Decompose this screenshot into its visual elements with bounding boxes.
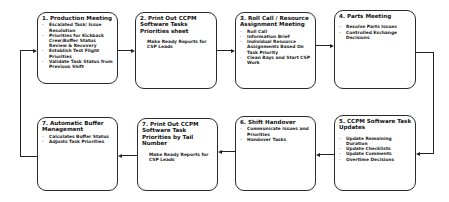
step-item: Priorities for Kickback Crew\Buffer Stat…: [42, 33, 114, 49]
arrow-right-icon: [131, 49, 135, 53]
arrow-left-icon: [118, 154, 122, 158]
step-item: Update Remaining Duration: [339, 136, 412, 146]
step-item: Handover Tasks: [240, 137, 312, 142]
connector-3-4: [316, 45, 330, 46]
connector-4-5-vertical: [433, 52, 434, 153]
connector-1-2: [118, 50, 131, 51]
step-item: Escalated Task/ Issue Resolution: [42, 22, 114, 32]
step-item: Establish Test Flight Priorities: [42, 48, 114, 58]
step-item: Individual Resource Assignments Based On…: [240, 39, 312, 55]
connector-7-7: [122, 155, 137, 156]
step-item: Overtime Decisions: [339, 157, 412, 162]
step-item: Controlled Exchange Decisions: [339, 30, 412, 40]
connector-loop-vertical: [20, 50, 21, 157]
connector-2-3: [217, 50, 231, 51]
arrow-left-icon: [316, 153, 320, 157]
step-item: Clean Bays and Start CSP Work: [240, 55, 312, 65]
step-title: 6. Shift Handover: [240, 119, 312, 125]
connector-loop-horizontal-top: [20, 50, 33, 51]
step-item: Make Ready Reports for CSP Leads: [140, 39, 213, 49]
step-2-print-ccpm-priorities: 2. Print Out CCPM Software Tasks Priorit…: [135, 12, 217, 89]
connector-loop-horizontal-bottom: [20, 156, 37, 157]
step-1-production-meeting: 1. Production Meeting Escalated Task/ Is…: [37, 12, 118, 84]
arrow-right-icon: [330, 44, 334, 48]
step-items: Make Ready Reports for CSP Leads: [142, 152, 214, 162]
step-title: 5. CCPM Software Task Updates: [339, 118, 412, 131]
step-items: Make Ready Reports for CSP Leads: [140, 39, 213, 49]
arrow-right-icon: [231, 49, 235, 53]
step-items: Roll Call Information Brief Individual R…: [240, 29, 312, 65]
arrow-left-icon: [218, 150, 222, 154]
connector-5-6: [320, 154, 334, 155]
step-item: Adjusts Task Priorities: [42, 139, 114, 144]
step-title: 1. Production Meeting: [42, 15, 114, 21]
step-items: Escalated Task/ Issue Resolution Priorit…: [42, 22, 114, 69]
step-item: Validate Task Status from Previous Shift: [42, 59, 114, 69]
step-7-automatic-buffer-management: 7. Automatic Buffer Management Calculate…: [37, 117, 118, 191]
step-item: Make Ready Reports for CSP Leads: [142, 152, 214, 162]
step-title: 7. Automatic Buffer Management: [42, 120, 114, 133]
step-title: 3. Roll Call / Resource Assignment Meeti…: [240, 15, 312, 28]
step-title: 2. Print Out CCPM Software Tasks Priorit…: [140, 15, 213, 34]
step-3-roll-call-meeting: 3. Roll Call / Resource Assignment Meeti…: [235, 12, 316, 89]
connector-4-5-horizontal-top: [416, 52, 434, 53]
step-items: Calculates Buffer Status Adjusts Task Pr…: [42, 134, 114, 144]
arrow-left-icon: [416, 152, 420, 156]
step-4-parts-meeting: 4. Parts Meeting Resolve Parts Issues Co…: [334, 10, 416, 89]
connector-4-5-horizontal-bottom: [420, 153, 434, 154]
step-title: 7. Print Out CCPM Software Task Prioriti…: [142, 121, 214, 147]
arrow-right-icon: [33, 49, 37, 53]
step-title: 4. Parts Meeting: [339, 13, 412, 19]
step-5-ccpm-task-updates: 5. CCPM Software Task Updates Update Rem…: [334, 115, 416, 191]
step-items: Update Remaining Duration Update Checkli…: [339, 136, 412, 162]
step-items: Communicate Issues and Priorities Handov…: [240, 126, 312, 142]
step-6-shift-handover: 6. Shift Handover Communicate Issues and…: [235, 116, 316, 191]
step-item: Communicate Issues and Priorities: [240, 126, 312, 136]
connector-6-7: [222, 151, 235, 152]
step-items: Resolve Parts Issues Controlled Exchange…: [339, 24, 412, 40]
step-7-print-ccpm-by-tail: 7. Print Out CCPM Software Task Prioriti…: [137, 118, 218, 191]
